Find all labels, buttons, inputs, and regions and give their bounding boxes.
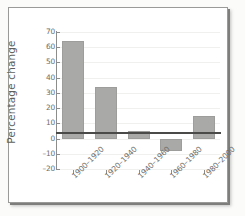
y-tick-label: 30 bbox=[11, 89, 55, 97]
y-tick-label-wrap: 10 bbox=[9, 119, 55, 127]
y-tick-label-wrap: –20 bbox=[9, 165, 55, 173]
y-tick-label: 10 bbox=[11, 119, 55, 127]
y-tick-label: 20 bbox=[11, 104, 55, 112]
y-tick-label-wrap: 0 bbox=[9, 135, 55, 143]
y-tick-label-wrap: 50 bbox=[9, 58, 55, 66]
y-tick-label: 40 bbox=[11, 74, 55, 82]
x-axis-baseline bbox=[56, 132, 221, 134]
bar bbox=[193, 116, 215, 139]
y-tick-label: 70 bbox=[11, 28, 55, 36]
y-tick-label: –20 bbox=[11, 165, 55, 173]
y-tick-label-wrap: 60 bbox=[9, 43, 55, 51]
y-tick-label: 60 bbox=[11, 43, 55, 51]
y-axis-line bbox=[56, 31, 57, 170]
bar bbox=[62, 41, 84, 138]
y-tick-mark bbox=[56, 123, 60, 124]
y-tick-label-wrap: –10 bbox=[9, 150, 55, 158]
figure-container: Percentage change 706050403020100–10–20 … bbox=[0, 0, 245, 216]
y-tick-mark bbox=[56, 108, 60, 109]
y-tick-label-wrap: 40 bbox=[9, 74, 55, 82]
chart-frame: Percentage change 706050403020100–10–20 … bbox=[8, 7, 228, 203]
y-tick-label-wrap: 30 bbox=[9, 89, 55, 97]
y-tick-mark bbox=[56, 139, 60, 140]
y-tick-label: 50 bbox=[11, 58, 55, 66]
y-tick-label: –10 bbox=[11, 150, 55, 158]
y-tick-mark bbox=[56, 62, 60, 63]
y-tick-label-wrap: 70 bbox=[9, 28, 55, 36]
bar bbox=[95, 87, 117, 139]
y-tick-label-wrap: 20 bbox=[9, 104, 55, 112]
y-tick-mark bbox=[56, 169, 60, 170]
y-tick-mark bbox=[56, 93, 60, 94]
y-tick-mark bbox=[56, 78, 60, 79]
y-tick-mark bbox=[56, 154, 60, 155]
y-tick-mark bbox=[56, 32, 60, 33]
y-tick-label: 0 bbox=[11, 135, 55, 143]
y-tick-mark bbox=[56, 47, 60, 48]
